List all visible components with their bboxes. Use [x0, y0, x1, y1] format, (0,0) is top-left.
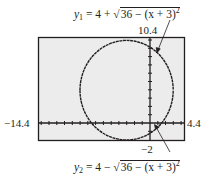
exponent: 2	[176, 6, 180, 15]
exponent: 2	[176, 159, 180, 168]
radicand-text: 36 − (x + 3)	[121, 8, 176, 20]
ymin-label: −2	[141, 143, 153, 155]
equation-y2-radicand: 36 − (x + 3)2	[120, 160, 180, 173]
equation-y2-prefix: = 4 −	[83, 161, 113, 173]
calculator-screen	[39, 38, 185, 141]
equation-y1-prefix: = 4 +	[83, 8, 113, 20]
graph-canvas	[0, 0, 204, 175]
equation-y2: y2 = 4 − √36 − (x + 3)2	[74, 157, 180, 175]
radical-sign-icon: √	[113, 8, 119, 20]
equation-y1-radicand: 36 − (x + 3)2	[120, 7, 180, 20]
xmin-label: −14.4	[4, 117, 29, 129]
ymax-label: 10.4	[138, 24, 157, 36]
radicand-text: 36 − (x + 3)	[121, 161, 176, 173]
xmax-label: 4.4	[187, 117, 201, 129]
radical-sign-icon: √	[113, 161, 119, 173]
equation-y1: y1 = 4 + √36 − (x + 3)2	[74, 4, 180, 25]
